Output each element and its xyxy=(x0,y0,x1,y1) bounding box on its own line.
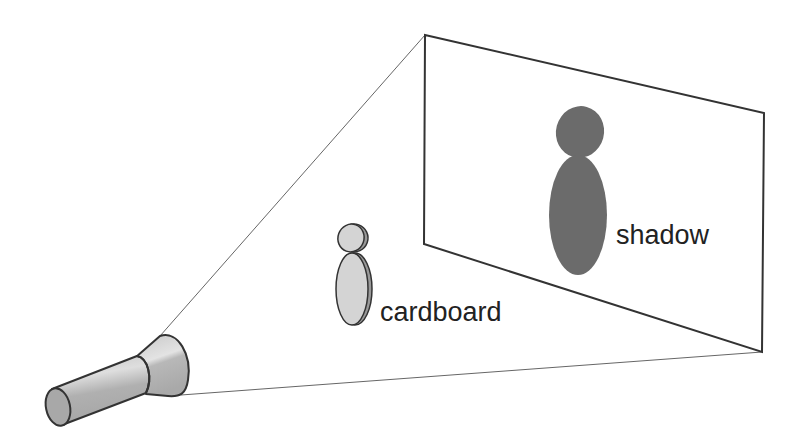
shadow-label: shadow xyxy=(616,220,710,250)
flashlight xyxy=(42,335,188,428)
cardboard-figure xyxy=(334,220,372,325)
cardboard-label: cardboard xyxy=(380,297,502,327)
beam-top-edge xyxy=(160,35,425,336)
cardboard-body xyxy=(336,253,368,325)
cardboard-head xyxy=(334,220,368,255)
shadow-figure xyxy=(549,101,610,275)
shadow-body xyxy=(549,155,607,275)
beam-bottom-edge xyxy=(181,352,762,395)
shadow-diagram: shadow cardboard xyxy=(0,0,807,438)
